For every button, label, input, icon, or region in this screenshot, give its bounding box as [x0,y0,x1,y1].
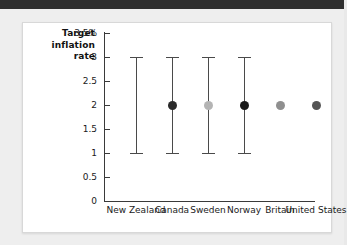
y-axis-tick-mark [105,81,110,82]
y-axis-tick-mark [105,105,110,106]
error-bar-cap-upper [238,57,251,58]
error-bar-cap-lower [238,153,251,154]
y-axis-tick-label: 2.5 [53,77,97,86]
y-axis-tick-label: 1.5 [53,125,97,134]
y-axis-tick-mark [105,153,110,154]
y-axis-tick-mark [105,177,110,178]
y-axis-tick-mark [105,33,110,34]
x-axis-line [104,201,315,202]
error-bar-cap-upper [130,57,143,58]
y-axis-tick-mark [105,201,110,202]
data-point-dot[interactable] [312,101,321,110]
error-bar-cap-lower [130,153,143,154]
data-point-dot[interactable] [276,101,285,110]
error-bar-cap-lower [202,153,215,154]
y-axis-tick-label: 3 [53,53,97,62]
y-axis-tick-label: 1 [53,149,97,158]
error-bar-cap-lower [166,153,179,154]
error-bar-cap-upper [166,57,179,58]
data-point-dot[interactable] [204,101,213,110]
y-axis-tick-mark [105,57,110,58]
error-bar-line [136,57,137,153]
y-axis-tick-label: 2 [53,101,97,110]
plot-area: 00.511.522.533.5% New ZealandCanadaSwede… [23,23,333,234]
data-point-dot[interactable] [168,101,177,110]
x-axis-category-label: United States [285,205,347,216]
y-axis-tick-label: 0.5 [53,173,97,182]
page-top-banner [0,0,344,9]
y-axis-tick-mark [105,129,110,130]
y-axis-tick-label: 0 [53,197,97,206]
figure-card: Target inflation rate 00.511.522.533.5% … [22,22,332,233]
data-point-dot[interactable] [240,101,249,110]
error-bar-cap-upper [202,57,215,58]
y-axis-tick-label: 3.5% [53,29,97,38]
